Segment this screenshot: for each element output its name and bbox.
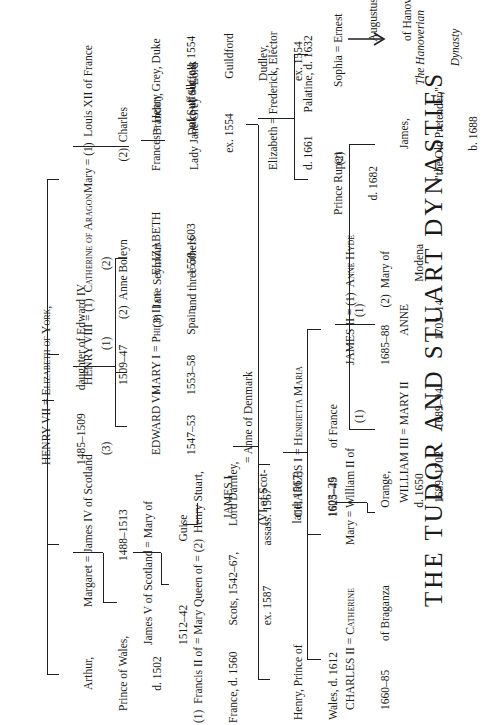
line [335,502,367,503]
line [307,329,321,330]
node-charles-ii: CHARLES II = Catherine 1660–85 of Bragan… [322,585,414,710]
node-arthur: Arthur, Prince of Wales, d. 1502 [60,636,187,711]
line [258,125,259,680]
marker-1: (1) [354,410,366,423]
line [367,512,375,513]
line [307,534,321,535]
line [73,366,115,367]
line [47,179,48,675]
line [233,446,259,447]
node-edward-vi: EDWARD VI 1547–53 [128,391,220,455]
line [307,659,321,660]
line [294,54,308,55]
marker-2: (2) [334,152,346,165]
line [258,118,294,119]
chart-title: THE TUDOR AND STUART DYNASTIES [420,71,448,607]
line [47,354,59,355]
line [47,544,59,545]
marker-1: (1) [354,304,366,317]
line [47,674,59,675]
line [283,452,307,453]
arrow-right-icon [348,29,388,49]
line [183,524,197,525]
line [294,55,295,180]
marker-3: (3) [101,442,113,455]
line [294,179,308,180]
node-mary-i: MARY I = Philip II of 1553–58 Spain [128,292,220,395]
line [349,324,375,325]
marker-1: (1) [101,337,113,350]
line [197,503,198,525]
line [115,426,127,427]
line [349,429,375,430]
line [117,146,129,147]
node-elizabeth-i: ELIZABETH 1558–1603 [128,212,220,275]
line [349,145,350,430]
line [141,140,165,141]
line [133,552,161,553]
line [349,144,375,145]
marker-2: (2) [101,257,113,270]
line [73,552,103,553]
node-anne-of-denmark: = Anne of Denmark [220,371,278,463]
line [307,330,308,660]
line [161,584,169,585]
line [115,259,116,427]
line [335,324,349,325]
line [115,372,127,373]
line [258,464,270,465]
line [115,258,127,259]
line [73,146,117,147]
line [161,553,162,585]
line [258,679,270,680]
line [103,553,104,603]
line [47,179,59,180]
line [103,602,117,603]
